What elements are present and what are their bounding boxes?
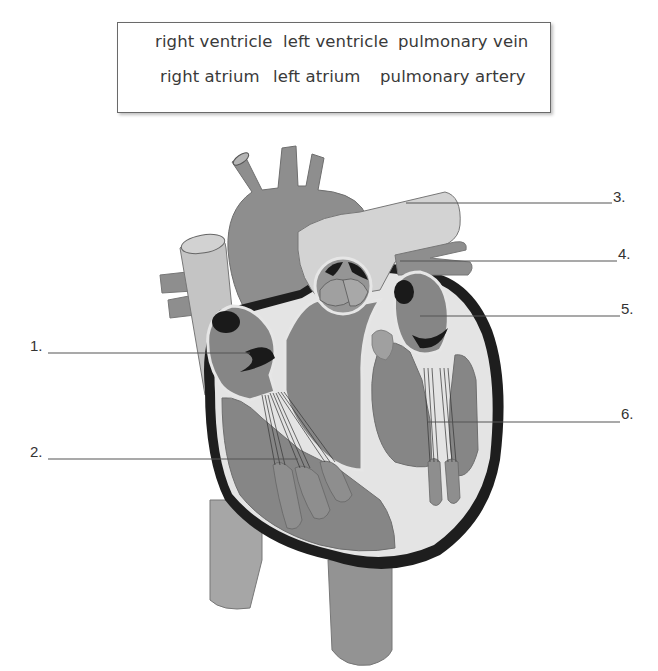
- vena-cava-opening-dark: [212, 311, 240, 333]
- papillary-muscle-left-1: [428, 459, 442, 506]
- left-ventricle-wall-chamber: [450, 355, 478, 476]
- label-number-2: 2.: [30, 443, 43, 460]
- label-number-1: 1.: [30, 337, 43, 354]
- heart-diagram: [0, 0, 658, 671]
- label-number-4: 4.: [618, 245, 631, 262]
- pulmonary-vein-opening-dark: [394, 280, 414, 304]
- label-number-6: 6.: [621, 405, 634, 422]
- label-number-3: 3.: [613, 188, 626, 205]
- label-number-5: 5.: [621, 300, 634, 317]
- descending-aorta: [328, 560, 392, 665]
